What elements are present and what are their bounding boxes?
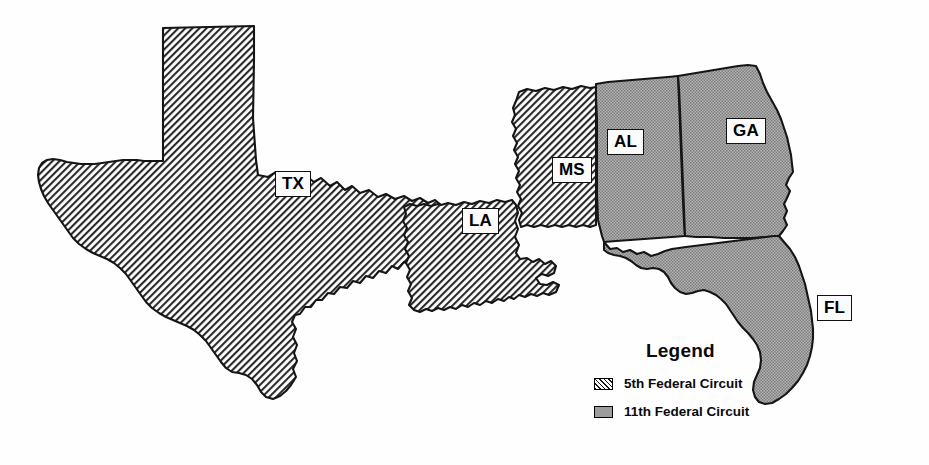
state-shape-ga[interactable] (678, 65, 793, 238)
legend-swatch-hatch-icon (594, 378, 613, 390)
legend-item-5th-circuit: 5th Federal Circuit (594, 376, 824, 391)
legend-item-11th-circuit: 11th Federal Circuit (594, 404, 824, 419)
map-legend: Legend 5th Federal Circuit 11th Federal … (594, 340, 824, 432)
legend-label-11th-circuit: 11th Federal Circuit (624, 404, 749, 419)
map-container: TX LA MS AL GA FL Legend 5th Federal Cir… (0, 0, 929, 465)
state-label-al: AL (607, 129, 644, 155)
state-shape-tx[interactable] (38, 26, 441, 399)
state-label-ga: GA (726, 118, 766, 144)
state-shape-al[interactable] (596, 76, 685, 242)
legend-title: Legend (646, 340, 824, 362)
state-label-tx: TX (275, 171, 311, 197)
state-label-ms: MS (552, 157, 592, 183)
legend-swatch-gray-icon (594, 406, 613, 418)
legend-label-5th-circuit: 5th Federal Circuit (624, 376, 743, 391)
state-label-la: LA (462, 208, 499, 234)
state-label-fl: FL (817, 295, 852, 321)
